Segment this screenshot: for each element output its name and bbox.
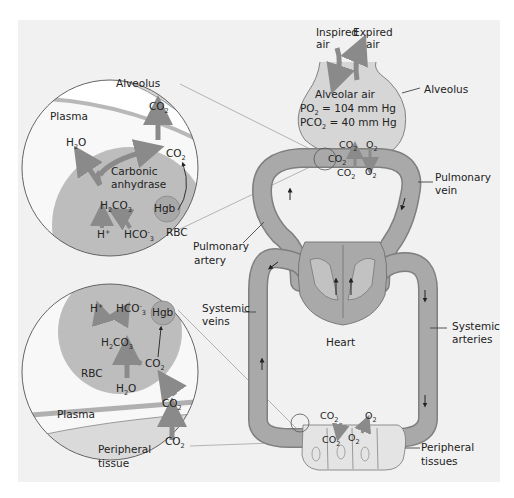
label-inspired: Inspired <box>316 26 358 38</box>
label-alveolar-air: Alveolar air <box>315 88 376 100</box>
label-o2-systemic: O2 <box>365 410 377 424</box>
label-rbc-bottom: RBC <box>81 367 103 379</box>
peripheral-tissue-cells: CO2 O2 CO2 O2 Peripheral tissues <box>291 410 474 470</box>
label-plasma-bottom: Plasma <box>57 408 95 420</box>
label-tissue-inset: tissue <box>98 457 129 469</box>
label-inspired-air: air <box>316 38 330 50</box>
label-alveolus: Alveolus <box>424 83 468 95</box>
label-rbc-top: RBC <box>166 226 188 238</box>
label-carbonic: Carbonic <box>111 165 158 177</box>
label-co2-tissue-inset: CO2 <box>165 435 185 450</box>
label-plasma-top: Plasma <box>50 110 88 122</box>
label-artery: artery <box>194 254 226 266</box>
label-hgb-bottom: Hgb <box>152 306 174 318</box>
label-systemic-arteries: Systemic <box>452 320 500 332</box>
label-hgb-top: Hgb <box>154 202 176 214</box>
label-alveolus-inset: Alveolus <box>116 77 160 89</box>
label-co2-systemic: CO2 <box>320 410 338 424</box>
label-expired: Expired <box>353 26 393 38</box>
label-anhydrase: anhydrase <box>111 178 166 190</box>
gas-exchange-diagram: Alveolus Plasma CO2 CO2 H2O Carbonic anh… <box>0 0 514 498</box>
label-pulmonary-artery: Pulmonary <box>193 240 249 252</box>
label-arteries: arteries <box>452 333 493 345</box>
label-vein: vein <box>435 184 457 196</box>
label-heart: Heart <box>326 336 355 348</box>
label-expired-air: air <box>366 38 380 50</box>
label-co2-blood: CO2 <box>337 167 355 181</box>
alveolus-sac: Inspired air Expired air Alveolar air PO… <box>298 26 468 159</box>
label-veins: veins <box>202 315 230 327</box>
label-tissues: tissues <box>421 455 458 467</box>
bottom-inset-tissue-exchange: H+ HCO-3 Hgb H2CO3 CO2 RBC H2O CO2 Plasm… <box>20 270 220 480</box>
heart: Heart <box>298 242 386 348</box>
label-peripheral-inset: Peripheral <box>98 443 151 455</box>
label-peripheral-tissues: Peripheral <box>421 441 474 453</box>
label-o2-blood: O2 <box>365 166 377 180</box>
top-inset-alveolar-exchange: Alveolus Plasma CO2 CO2 H2O Carbonic anh… <box>20 60 230 303</box>
label-systemic-veins: Systemic <box>202 302 250 314</box>
label-pulmonary-vein: Pulmonary <box>435 171 491 183</box>
